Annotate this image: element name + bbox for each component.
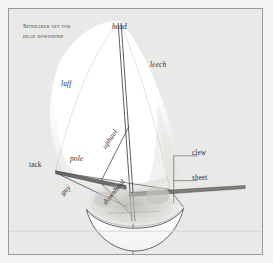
diagram-title: Spinnaker set for dead downwind xyxy=(23,21,70,40)
diagram-title-line-2: dead downwind xyxy=(23,31,70,41)
label-leech: leech xyxy=(150,61,166,70)
diagram-title-line-1: Spinnaker set for xyxy=(23,21,70,31)
label-pole: pole xyxy=(70,155,83,164)
illustration-page: Spinnaker set for dead downwind head lee… xyxy=(0,0,273,263)
spinnaker-diagram-graphic xyxy=(9,9,262,254)
label-tack: tack xyxy=(29,161,42,169)
label-sheet: sheet xyxy=(192,174,208,182)
diagram-plate: Spinnaker set for dead downwind head lee… xyxy=(8,8,263,255)
label-luff: luff xyxy=(61,80,71,89)
crew-shadow xyxy=(90,185,173,223)
label-head: head xyxy=(112,23,127,32)
diagram-canvas: Spinnaker set for dead downwind head lee… xyxy=(9,9,262,254)
label-clew: clew xyxy=(192,149,206,157)
